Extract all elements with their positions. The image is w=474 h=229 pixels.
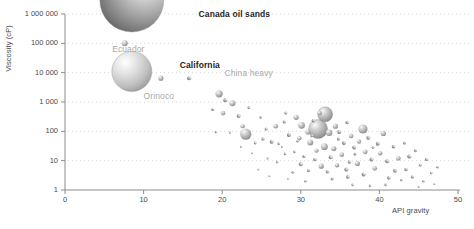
bubble (436, 166, 438, 168)
bubble (337, 137, 340, 140)
bubble (229, 132, 231, 134)
bubble (284, 112, 287, 115)
bubble (422, 180, 424, 182)
bubble (396, 156, 401, 161)
bubble (372, 166, 377, 171)
y-tick-label: 100 000 (0, 38, 58, 47)
bubble (385, 159, 389, 163)
bubble (344, 167, 348, 171)
y-tick-label: 10 000 (0, 68, 58, 77)
y-tick-label: 1 000 000 (0, 9, 58, 18)
bubble (240, 124, 244, 128)
bubble (261, 137, 264, 140)
bubble (430, 172, 433, 175)
bubble (317, 111, 321, 115)
bubble (425, 158, 428, 161)
axis-ticks (61, 14, 458, 194)
y-tick-label: 100 (0, 126, 58, 135)
bubble-orinoco (112, 51, 152, 91)
bubble (310, 134, 313, 137)
bubble (346, 175, 350, 179)
bubble (393, 169, 397, 173)
x-tick-label: 50 (438, 195, 474, 204)
y-tick-label: 10 (0, 156, 58, 165)
bubble (339, 152, 344, 157)
bubble (411, 175, 414, 178)
x-axis-title: API gravity (392, 206, 429, 215)
bubble (307, 169, 310, 172)
bubble (414, 149, 417, 152)
annotation-california: California (180, 60, 220, 70)
bubble (299, 162, 303, 166)
bubble (354, 152, 357, 155)
bubble (370, 157, 374, 161)
bubble (237, 114, 241, 118)
bubble (387, 176, 391, 180)
bubble (215, 90, 222, 97)
bubble (321, 143, 328, 150)
bubble (366, 136, 370, 140)
bubble (404, 168, 408, 172)
bubble (302, 155, 305, 158)
annotation-ecuador: Ecuador (112, 44, 144, 54)
bubble (419, 164, 422, 167)
bubble (313, 158, 317, 162)
bubble (345, 121, 349, 125)
bubble (240, 146, 242, 148)
bubble (254, 142, 257, 145)
bubble (281, 146, 283, 148)
bubble (284, 153, 287, 156)
bubble (352, 146, 356, 150)
bubble (349, 133, 354, 138)
bubble (363, 149, 368, 154)
x-tick-label: 30 (281, 195, 321, 204)
bubble (333, 124, 338, 129)
annotation-orinoco: Orinoco (144, 91, 174, 101)
bubble (392, 145, 396, 149)
bubble (372, 146, 375, 149)
bubble (276, 161, 278, 163)
bubble (296, 140, 298, 142)
annotation-china-heavy: China heavy (225, 68, 273, 78)
bubble (326, 170, 330, 174)
bubble (381, 131, 386, 136)
bubble (319, 164, 324, 169)
y-tick-label: 1 000 (0, 97, 58, 106)
bubble (331, 146, 336, 151)
annotation-canada-oil-sands: Canada oil sands (199, 9, 271, 19)
bubble (357, 139, 361, 143)
bubble (348, 160, 352, 164)
bubble (265, 127, 268, 130)
x-tick-label: 10 (124, 195, 164, 204)
bubble (403, 141, 406, 144)
bubble (329, 155, 333, 159)
bubble (418, 186, 420, 188)
bubble (376, 142, 380, 146)
bubble (267, 157, 269, 159)
bubble (331, 177, 334, 180)
bubble (257, 169, 259, 171)
bubble (229, 100, 235, 106)
bubble (248, 106, 251, 109)
bubble (277, 142, 280, 145)
x-tick-label: 40 (359, 195, 399, 204)
bubble (342, 141, 346, 145)
bubble-california (158, 76, 163, 81)
y-tick-label: 1 (0, 185, 58, 194)
bubble (215, 131, 217, 133)
bubble (211, 108, 214, 111)
bubble (312, 119, 316, 123)
bubble (283, 120, 286, 123)
bubble (268, 175, 270, 177)
bubble (433, 183, 435, 185)
bubble (259, 116, 262, 119)
bubble (293, 115, 298, 120)
x-tick-label: 20 (202, 195, 242, 204)
bubble (297, 136, 301, 140)
bubble (240, 129, 251, 140)
bubble (293, 150, 296, 153)
bubble (407, 154, 411, 158)
bubble (292, 171, 295, 174)
bubble (314, 148, 318, 152)
x-tick-label: 0 (45, 195, 85, 204)
